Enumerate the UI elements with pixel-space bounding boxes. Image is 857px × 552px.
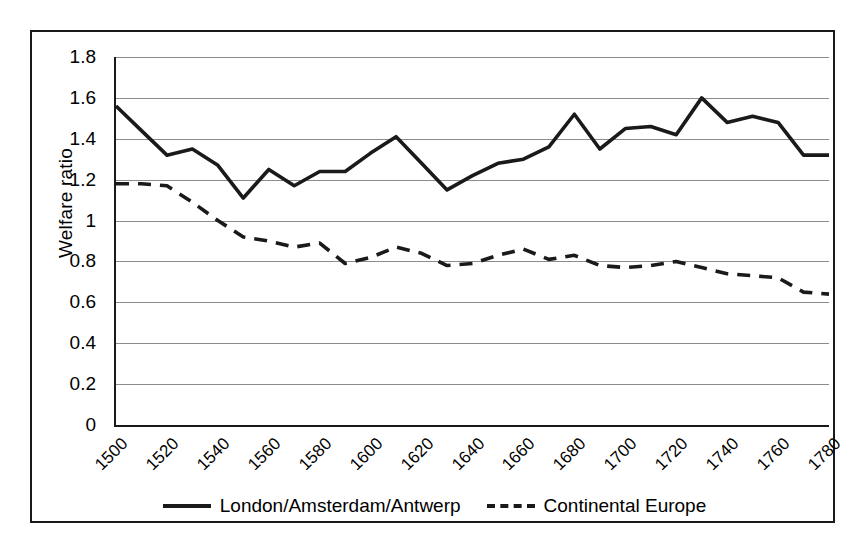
x-tick-label: 1640 [441,434,489,482]
y-tick-label: 1.4 [50,129,96,148]
series-line-2 [116,184,829,294]
x-tick-label: 1560 [237,434,285,482]
y-tick-label: 1.2 [50,170,96,189]
y-tick-label: 0.8 [50,251,96,270]
x-tick-label: 1760 [746,434,794,482]
y-tick-label: 0.6 [50,292,96,311]
x-tick-label: 1720 [644,434,692,482]
x-tick-label: 1680 [542,434,590,482]
x-tick-label: 1620 [390,434,438,482]
chart-figure: Welfare ratio 1.81.61.41.210.80.60.40.20… [30,30,835,523]
x-tick-label: 1540 [186,434,234,482]
y-tick-label: 1.8 [50,47,96,66]
plot-wrapper: Welfare ratio 1.81.61.41.210.80.60.40.20… [32,32,837,525]
chart-legend: London/Amsterdam/Antwerp Continental Eur… [32,495,837,517]
series-container [116,57,829,425]
y-tick-label: 1 [50,211,96,230]
legend-item-continental: Continental Europe [487,495,707,517]
legend-swatch-dashed-line-icon [487,504,535,508]
y-tick-label: 0 [50,415,96,434]
legend-label-london: London/Amsterdam/Antwerp [220,495,461,517]
x-tick-label: 1600 [339,434,387,482]
legend-swatch-solid-line-icon [163,504,211,508]
y-axis-tick-labels: 1.81.61.41.210.80.60.40.20 [50,32,96,525]
x-tick-label: 1660 [491,434,539,482]
x-tick-label: 1780 [797,434,845,482]
series-line-1 [116,98,829,198]
y-tick-label: 0.2 [50,374,96,393]
y-tick-label: 1.6 [50,88,96,107]
x-axis-tick-labels: 1500152015401560158016001620164016601680… [114,428,827,498]
x-tick-label: 1700 [593,434,641,482]
y-tick-label: 0.4 [50,333,96,352]
x-tick-label: 1740 [695,434,743,482]
legend-label-continental: Continental Europe [544,495,707,517]
x-tick-label: 1580 [288,434,336,482]
legend-item-london: London/Amsterdam/Antwerp [163,495,461,517]
x-tick-label: 1520 [135,434,183,482]
plot-area [114,57,829,427]
